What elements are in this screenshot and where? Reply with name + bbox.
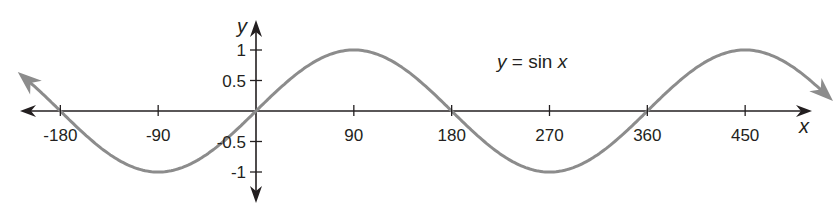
y-tick-label: 1 [237, 41, 246, 60]
x-tick-label: 180 [437, 126, 465, 145]
equation-label: y = sin x [495, 51, 569, 72]
equation-arg: x [557, 51, 569, 72]
x-tick-label: 450 [731, 126, 759, 145]
y-axis-label: y [235, 15, 248, 37]
x-axis-label: x [798, 115, 810, 137]
y-tick-label: 0.5 [222, 72, 246, 91]
sine-chart: -180-909018027036045010.5-0.5-1 y x y = … [0, 0, 836, 215]
y-tick-label: -0.5 [217, 133, 246, 152]
x-tick-label: -180 [43, 126, 77, 145]
x-tick-label: 90 [344, 126, 363, 145]
equation-op: = sin [507, 51, 558, 72]
x-tick-label: 360 [633, 126, 661, 145]
axes [20, 20, 812, 203]
x-tick-label: -90 [146, 126, 171, 145]
y-tick-label: -1 [231, 163, 246, 182]
x-tick-label: 270 [535, 126, 563, 145]
